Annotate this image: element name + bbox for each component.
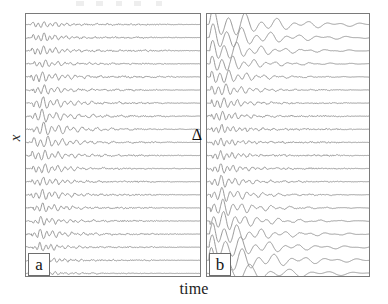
waveform-trace bbox=[26, 164, 200, 173]
waveform-trace bbox=[207, 70, 369, 83]
y-axis-label: x bbox=[5, 129, 25, 147]
waveform-trace bbox=[26, 257, 200, 264]
waveform-trace bbox=[26, 189, 200, 199]
waveform-trace bbox=[26, 60, 200, 67]
waveform-trace bbox=[26, 177, 200, 185]
delta-annotation: Δ bbox=[189, 126, 205, 143]
panel-b-label: b bbox=[209, 253, 231, 276]
waveform-trace bbox=[26, 216, 200, 225]
cropped-header-remnant bbox=[70, 1, 200, 6]
waveform-trace bbox=[207, 164, 369, 173]
waveform-trace bbox=[26, 242, 200, 250]
waveform-trace bbox=[26, 46, 200, 54]
waveform-trace bbox=[207, 56, 369, 70]
waveform-trace bbox=[26, 122, 200, 135]
figure-root: x Δ a b time bbox=[0, 0, 388, 304]
waveform-trace bbox=[207, 235, 369, 257]
waveform-trace bbox=[207, 111, 369, 120]
waveform-trace bbox=[26, 150, 200, 160]
waveform-trace bbox=[207, 24, 369, 47]
panel-b-traces bbox=[207, 14, 369, 276]
panel-a-traces bbox=[26, 14, 200, 276]
waveform-trace bbox=[207, 199, 369, 215]
waveform-trace bbox=[207, 124, 369, 132]
waveform-trace bbox=[207, 150, 369, 159]
waveform-trace bbox=[26, 22, 200, 28]
waveform-trace bbox=[207, 175, 369, 187]
waveform-trace bbox=[207, 212, 369, 230]
waveform-trace bbox=[207, 187, 369, 201]
x-axis-label: time bbox=[0, 280, 388, 298]
waveform-trace bbox=[26, 109, 200, 122]
waveform-trace bbox=[26, 33, 200, 41]
waveform-trace bbox=[26, 271, 200, 276]
waveform-trace bbox=[207, 84, 369, 95]
waveform-trace bbox=[26, 229, 200, 238]
waveform-trace bbox=[26, 85, 200, 94]
panel-b bbox=[206, 13, 370, 277]
waveform-trace bbox=[207, 138, 369, 146]
panel-a bbox=[25, 13, 201, 277]
waveform-trace bbox=[26, 136, 200, 147]
panel-a-label: a bbox=[28, 253, 50, 276]
waveform-trace bbox=[207, 248, 369, 272]
waveform-trace bbox=[26, 72, 200, 82]
waveform-trace bbox=[26, 97, 200, 108]
waveform-trace bbox=[207, 98, 369, 108]
waveform-trace bbox=[26, 203, 200, 212]
waveform-trace bbox=[207, 14, 369, 35]
waveform-trace bbox=[207, 263, 369, 276]
